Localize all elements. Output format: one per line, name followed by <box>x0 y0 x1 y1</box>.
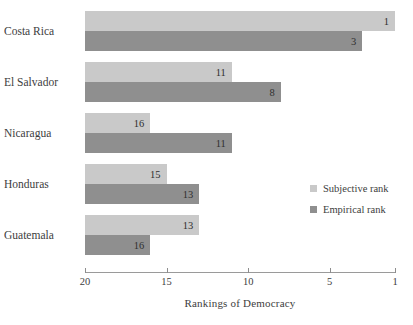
legend-swatch-icon <box>310 185 317 192</box>
legend-item-empirical[interactable]: Empirical rank <box>310 204 386 215</box>
category-label-text: Guatemala <box>4 229 54 241</box>
x-axis-line <box>85 272 395 273</box>
x-axis-tick <box>395 268 396 273</box>
bar-value-label: 15 <box>150 169 161 180</box>
category-label-costa-rica: Costa Rica <box>4 11 82 51</box>
category-label-text: Nicaragua <box>4 127 51 139</box>
x-axis-tick-label: 10 <box>243 276 254 287</box>
bar-guatemala-subjective: 13 <box>85 215 199 235</box>
x-axis-tick <box>330 268 331 273</box>
x-axis-tick-label: 1 <box>392 276 397 287</box>
bar-nicaragua-empirical: 11 <box>85 133 232 153</box>
bar-value-label: 11 <box>216 138 226 149</box>
x-axis-tick <box>85 268 86 273</box>
bar-value-label: 3 <box>351 36 356 47</box>
category-label-text: Costa Rica <box>4 25 54 37</box>
bar-guatemala-empirical: 16 <box>85 235 150 255</box>
category-label-text: Honduras <box>4 178 49 190</box>
category-label-nicaragua: Nicaragua <box>4 113 82 153</box>
category-label-el-salvador: El Salvador <box>4 62 82 102</box>
bar-costa-rica-empirical: 3 <box>85 31 362 51</box>
democracy-rankings-chart: Costa Rica13El Salvador118Nicaragua1611H… <box>0 0 413 325</box>
bar-honduras-empirical: 13 <box>85 184 199 204</box>
legend-swatch-icon <box>310 206 317 213</box>
bar-value-label: 16 <box>134 118 145 129</box>
x-axis-tick-label: 5 <box>327 276 332 287</box>
bar-value-label: 16 <box>134 240 145 251</box>
bar-nicaragua-subjective: 16 <box>85 113 150 133</box>
bar-el-salvador-empirical: 8 <box>85 82 281 102</box>
bar-value-label: 13 <box>183 220 194 231</box>
x-axis-tick-label: 20 <box>80 276 91 287</box>
legend-item-label: Empirical rank <box>323 204 386 215</box>
x-axis-tick <box>248 268 249 273</box>
bar-el-salvador-subjective: 11 <box>85 62 232 82</box>
bar-value-label: 1 <box>384 16 389 27</box>
category-label-text: El Salvador <box>4 76 58 88</box>
bar-costa-rica-subjective: 1 <box>85 11 395 31</box>
bar-value-label: 13 <box>183 189 194 200</box>
legend-item-subjective[interactable]: Subjective rank <box>310 183 389 194</box>
legend-item-label: Subjective rank <box>323 183 389 194</box>
bar-value-label: 8 <box>270 87 275 98</box>
category-label-honduras: Honduras <box>4 164 82 204</box>
category-label-guatemala: Guatemala <box>4 215 82 255</box>
plot-area: Costa Rica13El Salvador118Nicaragua1611H… <box>0 0 413 325</box>
x-axis-title: Rankings of Democracy <box>184 297 295 309</box>
x-axis-tick <box>167 268 168 273</box>
bar-value-label: 11 <box>216 67 226 78</box>
bar-honduras-subjective: 15 <box>85 164 167 184</box>
x-axis-tick-label: 15 <box>161 276 172 287</box>
